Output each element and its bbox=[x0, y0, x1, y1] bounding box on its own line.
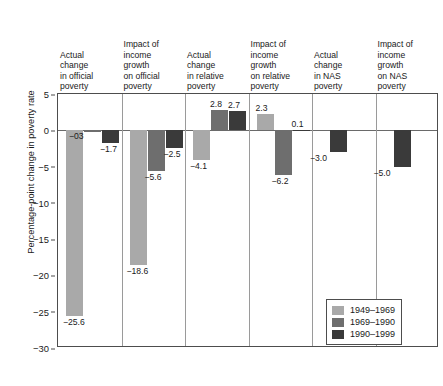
bar-value-label-3-1: −6.2 bbox=[272, 177, 289, 186]
bar-group-3: 2.3−6.20.1 bbox=[249, 94, 313, 346]
column-header-line: on relative bbox=[251, 71, 312, 82]
bar-3-2 bbox=[293, 130, 310, 131]
y-axis-tick-mark bbox=[51, 348, 55, 349]
y-axis-tick-7: −30 bbox=[33, 343, 58, 354]
bar-0-2 bbox=[102, 130, 119, 142]
column-header-4: Actualchangein NASpoverty bbox=[311, 6, 375, 92]
y-axis-tick-mark bbox=[51, 239, 55, 240]
bar-value-label-1-0: −18.6 bbox=[127, 267, 149, 276]
bar-1-2 bbox=[166, 130, 183, 148]
bar-value-label-3-0: 2.3 bbox=[256, 104, 268, 113]
column-header-0: Actualchangein officialpoverty bbox=[57, 6, 121, 92]
bar-3-0 bbox=[257, 114, 274, 131]
y-axis-tick-mark bbox=[51, 203, 55, 204]
y-axis-tick-3: −10 bbox=[33, 197, 58, 208]
poverty-change-bar-chart: Actualchangein officialpovertyImpact ofi… bbox=[0, 0, 443, 386]
bar-3-1 bbox=[275, 130, 292, 175]
bar-0-0 bbox=[66, 130, 83, 316]
column-header-3: Impact ofincomegrowthon relativepoverty bbox=[248, 6, 312, 92]
bar-value-label-2-2: 2.7 bbox=[228, 101, 240, 110]
y-axis-tick-label: −20 bbox=[33, 270, 49, 281]
legend-swatch-icon bbox=[332, 318, 344, 327]
bar-value-label-2-0: −4.1 bbox=[190, 162, 207, 171]
legend-item-2: 1990–1999 bbox=[332, 328, 395, 340]
column-header-line: Impact of bbox=[251, 39, 312, 50]
y-axis-tick-0: 5 bbox=[44, 89, 58, 100]
legend-item-0: 1949–1969 bbox=[332, 304, 395, 316]
y-axis-tick-label: −15 bbox=[33, 234, 49, 245]
legend-label: 1949–1969 bbox=[350, 305, 395, 315]
y-axis-tick-mark bbox=[51, 167, 55, 168]
column-header-line: in relative bbox=[187, 71, 248, 82]
column-header-line: on NAS bbox=[378, 71, 439, 82]
bar-group-0: −25.6−03−1.7 bbox=[58, 94, 122, 346]
column-header-line: change bbox=[314, 60, 375, 71]
bar-2-2 bbox=[229, 111, 246, 131]
column-header-line: in NAS bbox=[314, 71, 375, 82]
y-axis-tick-2: −5 bbox=[38, 161, 58, 172]
legend-swatch-icon bbox=[332, 306, 344, 315]
bar-value-label-0-2: −1.7 bbox=[100, 145, 117, 154]
legend-swatch-icon bbox=[332, 330, 344, 339]
bar-value-label-5-2: −5.0 bbox=[374, 169, 391, 178]
bar-value-label-1-1: −5.6 bbox=[145, 173, 162, 182]
column-header-line: income bbox=[378, 50, 439, 61]
bar-value-label-3-2: 0.1 bbox=[292, 120, 304, 129]
bar-1-0 bbox=[130, 130, 147, 265]
column-header-line: poverty bbox=[251, 81, 312, 92]
column-header-line: poverty bbox=[314, 81, 375, 92]
bar-value-label-1-2: −2.5 bbox=[164, 150, 181, 159]
bar-2-0 bbox=[193, 130, 210, 160]
column-header-line: income bbox=[251, 50, 312, 61]
y-axis-tick-mark bbox=[51, 94, 55, 95]
column-header-line: poverty bbox=[187, 81, 248, 92]
y-axis-tick-label: 0 bbox=[44, 125, 49, 136]
bar-4-2 bbox=[330, 130, 347, 152]
bar-2-1 bbox=[211, 110, 228, 130]
bar-value-label-4-2: −3.0 bbox=[310, 154, 327, 163]
bar-group-2: −4.12.82.7 bbox=[185, 94, 249, 346]
column-header-line: on official bbox=[124, 71, 185, 82]
column-header-line: Actual bbox=[314, 50, 375, 61]
column-headers: Actualchangein officialpovertyImpact ofi… bbox=[57, 6, 438, 92]
y-axis-tick-label: −25 bbox=[33, 306, 49, 317]
y-axis-tick-label: −10 bbox=[33, 197, 49, 208]
column-header-line: in official bbox=[60, 71, 121, 82]
column-header-line: Actual bbox=[60, 50, 121, 61]
y-axis-tick-label: −30 bbox=[33, 343, 49, 354]
column-header-line: growth bbox=[378, 60, 439, 71]
y-axis-tick-mark bbox=[51, 312, 55, 313]
y-axis-tick-mark bbox=[51, 130, 55, 131]
column-header-line: Impact of bbox=[124, 39, 185, 50]
column-header-line: poverty bbox=[378, 81, 439, 92]
bar-1-1 bbox=[148, 130, 165, 171]
bar-value-label-0-0: −25.6 bbox=[63, 318, 85, 327]
legend-label: 1969–1990 bbox=[350, 317, 395, 327]
column-header-1: Impact ofincomegrowthon officialpoverty bbox=[121, 6, 185, 92]
bar-value-label-0-1: −03 bbox=[69, 132, 84, 141]
bar-value-label-2-1: 2.8 bbox=[210, 100, 222, 109]
y-axis-tick-label: 5 bbox=[44, 89, 49, 100]
y-axis-title: Percentage-point change in poverty rate bbox=[26, 62, 36, 282]
bar-0-1 bbox=[84, 130, 101, 132]
column-header-line: poverty bbox=[124, 81, 185, 92]
y-axis-tick-4: −15 bbox=[33, 234, 58, 245]
chart-legend: 1949–19691969–19901990–1999 bbox=[326, 299, 402, 345]
column-header-line: Actual bbox=[187, 50, 248, 61]
column-header-5: Impact ofincomegrowthon NASpoverty bbox=[375, 6, 439, 92]
y-axis-tick-label: −5 bbox=[38, 161, 49, 172]
y-axis-tick-1: 0 bbox=[44, 125, 58, 136]
column-header-line: Impact of bbox=[378, 39, 439, 50]
column-header-line: growth bbox=[251, 60, 312, 71]
column-header-line: growth bbox=[124, 60, 185, 71]
column-header-line: poverty bbox=[60, 81, 121, 92]
y-axis-tick-6: −25 bbox=[33, 306, 58, 317]
legend-item-1: 1969–1990 bbox=[332, 316, 395, 328]
column-header-2: Actualchangein relativepoverty bbox=[184, 6, 248, 92]
bar-group-1: −18.6−5.6−2.5 bbox=[122, 94, 186, 346]
y-axis-tick-5: −20 bbox=[33, 270, 58, 281]
column-header-line: income bbox=[124, 50, 185, 61]
y-axis-tick-mark bbox=[51, 275, 55, 276]
bar-5-2 bbox=[394, 130, 411, 166]
column-header-line: change bbox=[60, 60, 121, 71]
